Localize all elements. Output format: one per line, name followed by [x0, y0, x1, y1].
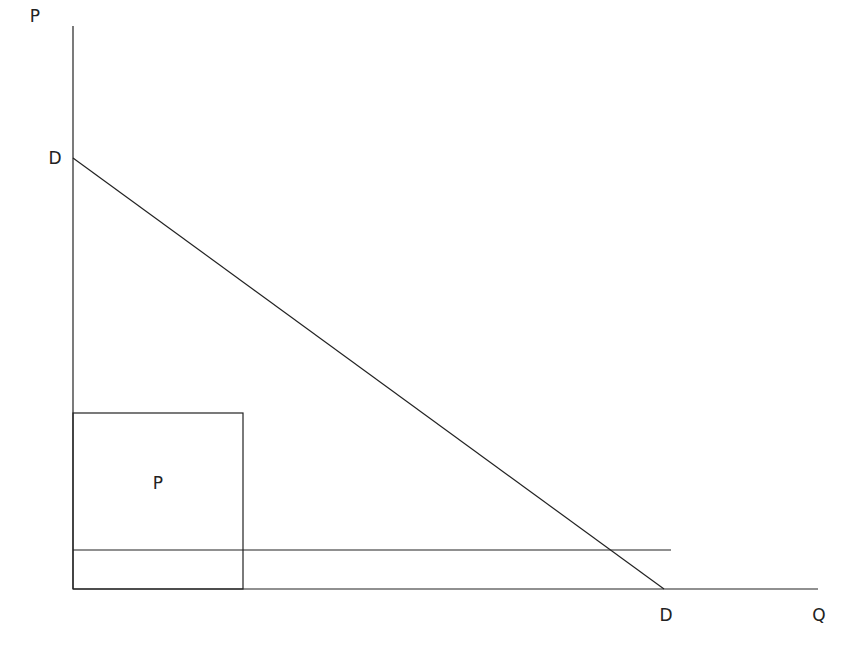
box-label: P: [153, 475, 163, 492]
demand-top-label: D: [48, 150, 61, 167]
box-region: [73, 413, 243, 589]
demand-bottom-label: D: [659, 607, 672, 624]
diagram-canvas: [0, 0, 858, 653]
y-axis-label: P: [30, 8, 40, 25]
x-axis-label: Q: [812, 607, 825, 624]
demand-line: [73, 158, 664, 589]
